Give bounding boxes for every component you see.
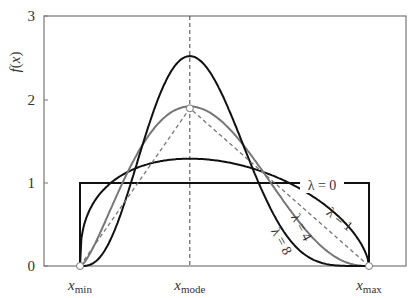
y-tick-label: 1 <box>28 175 36 191</box>
pert-distribution-chart: 0123 f(x) xminxmodexmax λ = 0λ = 1λ = 4λ… <box>0 0 419 298</box>
x-tick-label-max: xmax <box>355 277 382 295</box>
y-tick-label: 0 <box>28 258 36 274</box>
y-tick-label: 3 <box>28 8 36 24</box>
curve-label-lambda-0: λ = 0 <box>308 178 337 193</box>
y-tick-label: 2 <box>28 92 36 108</box>
y-axis-label: f(x) <box>7 52 24 73</box>
curve-labels: λ = 0λ = 1λ = 4λ = 8 <box>268 177 355 257</box>
plot-frame <box>44 16 406 266</box>
x-axis-ticks: xminxmodexmax <box>67 277 382 295</box>
x-min-marker <box>77 263 84 270</box>
curves <box>80 56 369 266</box>
x-tick-label-min: xmin <box>67 277 92 295</box>
y-axis-ticks: 0123 <box>28 8 49 274</box>
curve-label-lambda-8: λ = 8 <box>268 225 295 257</box>
curve-uniform <box>80 183 369 266</box>
mode-apex-marker <box>186 105 193 112</box>
x-tick-label-mode: xmode <box>173 277 205 295</box>
curve-label-lambda-4: λ = 4 <box>288 211 315 243</box>
x-max-marker <box>366 263 373 270</box>
